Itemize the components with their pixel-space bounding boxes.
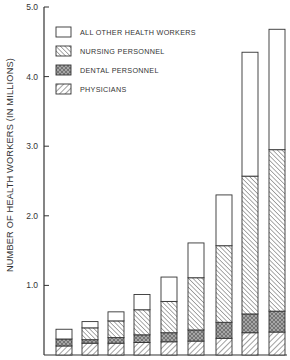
legend-swatch bbox=[56, 65, 71, 75]
bar-stack bbox=[56, 329, 72, 355]
bar-segment-dental-personnel bbox=[161, 333, 177, 342]
bar-segment-dental-personnel bbox=[56, 339, 72, 346]
bar-segment-physicians bbox=[188, 341, 204, 355]
bar-segment-all-other-health-workers bbox=[161, 277, 177, 301]
bar-segment-dental-personnel bbox=[134, 335, 150, 343]
bar-segment-all-other-health-workers bbox=[269, 29, 285, 149]
bar-segment-physicians bbox=[134, 342, 150, 355]
bar-segment-physicians bbox=[108, 343, 124, 355]
legend: ALL OTHER HEALTH WORKERSNURSING PERSONNE… bbox=[56, 27, 196, 94]
bar-stack bbox=[134, 294, 150, 355]
legend-label: DENTAL PERSONNEL bbox=[80, 66, 159, 75]
bar-segment-dental-personnel bbox=[269, 311, 285, 332]
bar-segment-all-other-health-workers bbox=[134, 294, 150, 309]
bar-segment-physicians bbox=[269, 332, 285, 355]
y-tick-label: 4.0 bbox=[26, 72, 38, 82]
bar-segment-all-other-health-workers bbox=[56, 329, 72, 339]
legend-swatch bbox=[56, 27, 71, 37]
bar-segment-dental-personnel bbox=[242, 314, 258, 333]
bar-segment-nursing-personnel bbox=[188, 278, 204, 330]
bar-segment-dental-personnel bbox=[188, 330, 204, 341]
legend-swatch bbox=[56, 84, 71, 94]
bar-segment-physicians bbox=[56, 346, 72, 355]
bar-segment-all-other-health-workers bbox=[108, 312, 124, 321]
bar-segment-all-other-health-workers bbox=[216, 195, 232, 246]
legend-label: NURSING PERSONNEL bbox=[80, 47, 165, 56]
legend-swatch bbox=[56, 46, 71, 56]
legend-label: ALL OTHER HEALTH WORKERS bbox=[80, 28, 196, 37]
y-tick-label: 1.0 bbox=[26, 280, 38, 290]
bar-segment-dental-personnel bbox=[216, 322, 232, 338]
bar-segment-nursing-personnel bbox=[216, 246, 232, 323]
stacked-bar-chart: NUMBER OF HEALTH WORKERS (IN MILLIONS) 1… bbox=[0, 0, 290, 360]
bar-stack bbox=[161, 277, 177, 355]
bar-segment-nursing-personnel bbox=[269, 150, 285, 311]
y-tick-label: 5.0 bbox=[26, 2, 38, 12]
bar-segment-nursing-personnel bbox=[108, 321, 124, 338]
bar-segment-dental-personnel bbox=[82, 340, 98, 343]
y-tick-label: 3.0 bbox=[26, 141, 38, 151]
bar-segment-physicians bbox=[242, 333, 258, 355]
bar-segment-nursing-personnel bbox=[134, 310, 150, 335]
bar-segment-nursing-personnel bbox=[161, 301, 177, 332]
bar-segment-physicians bbox=[161, 342, 177, 355]
bar-segment-dental-personnel bbox=[108, 338, 124, 344]
bar-segment-all-other-health-workers bbox=[242, 52, 258, 176]
bar-stack bbox=[108, 312, 124, 355]
bar-stack bbox=[216, 195, 232, 355]
bar-stack bbox=[82, 322, 98, 355]
bar-stack bbox=[188, 243, 204, 355]
bars bbox=[56, 29, 285, 355]
bar-segment-physicians bbox=[82, 343, 98, 355]
y-axis-title: NUMBER OF HEALTH WORKERS (IN MILLIONS) bbox=[5, 58, 15, 272]
bar-segment-all-other-health-workers bbox=[188, 243, 204, 278]
bar-segment-all-other-health-workers bbox=[82, 322, 98, 328]
bar-segment-nursing-personnel bbox=[82, 328, 98, 340]
y-tick-label: 2.0 bbox=[26, 211, 38, 221]
bar-stack bbox=[269, 29, 285, 355]
bar-segment-physicians bbox=[216, 338, 232, 355]
bar-segment-nursing-personnel bbox=[242, 176, 258, 314]
bar-stack bbox=[242, 52, 258, 355]
legend-label: PHYSICIANS bbox=[80, 85, 127, 94]
